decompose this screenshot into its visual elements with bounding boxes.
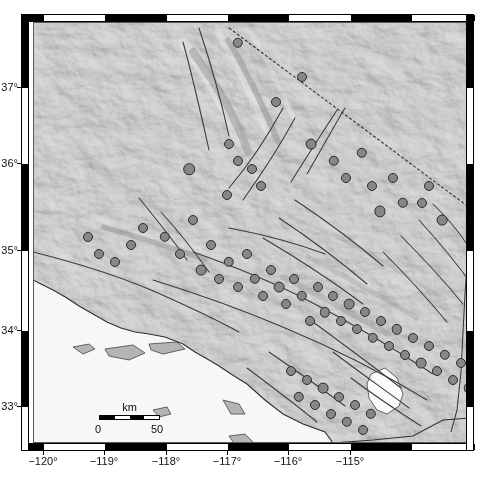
- y-tick-label: 37°: [0, 81, 18, 93]
- map-plot-area[interactable]: km 0 50: [33, 22, 470, 443]
- map-frame-bottom: [29, 443, 474, 451]
- y-tick-label: 34°: [0, 324, 18, 336]
- x-tick-label: −115°: [336, 455, 364, 467]
- y-tick-label: 35°: [0, 244, 18, 256]
- map-figure: km 0 50 −120°−119°−118°−117°−116°−115° 3…: [0, 0, 494, 484]
- x-tick-mark: [43, 451, 44, 455]
- map-frame-right: [466, 14, 474, 451]
- y-tick-mark: [17, 87, 21, 88]
- y-tick-label: 36°: [0, 157, 18, 169]
- y-tick-mark: [17, 406, 21, 407]
- x-tick-mark: [288, 451, 289, 455]
- x-tick-label: −116°: [274, 455, 302, 467]
- y-tick-mark: [17, 250, 21, 251]
- x-tick-label: −118°: [152, 455, 180, 467]
- x-tick-label: −119°: [90, 455, 118, 467]
- y-tick-mark: [17, 163, 21, 164]
- map-frame-top: [29, 14, 474, 22]
- x-tick-label: −117°: [213, 455, 241, 467]
- map-frame-left: [21, 14, 29, 451]
- x-tick-mark: [104, 451, 105, 455]
- plot-inner-border: [33, 22, 470, 443]
- x-tick-mark: [350, 451, 351, 455]
- x-tick-mark: [166, 451, 167, 455]
- y-tick-label: 33°: [0, 400, 18, 412]
- y-tick-mark: [17, 330, 21, 331]
- x-tick-mark: [227, 451, 228, 455]
- x-tick-label: −120°: [28, 455, 57, 467]
